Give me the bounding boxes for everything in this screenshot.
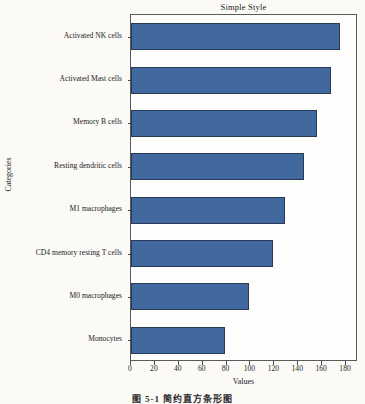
y-axis-tick xyxy=(128,254,131,255)
x-axis-tick-label: 0 xyxy=(128,364,132,373)
bar-row xyxy=(131,110,356,137)
x-axis-tick-label: 80 xyxy=(222,364,230,373)
bar-row xyxy=(131,327,356,354)
y-axis-tick xyxy=(128,123,131,124)
bar xyxy=(131,240,273,267)
bars-layer xyxy=(131,15,356,360)
x-axis-tick-label: 160 xyxy=(315,364,326,373)
x-axis-tick-label: 140 xyxy=(292,364,303,373)
y-axis-tick xyxy=(128,297,131,298)
x-axis-title: Values xyxy=(130,377,357,386)
bar-row xyxy=(131,67,356,94)
y-axis-tick-label: Monocytes xyxy=(0,334,126,343)
bar-row xyxy=(131,240,356,267)
x-axis-tick-label: 120 xyxy=(268,364,279,373)
y-axis-tick-label: Activated Mast cells xyxy=(0,74,126,83)
bar xyxy=(131,153,304,180)
bar xyxy=(131,283,249,310)
bar xyxy=(131,110,317,137)
y-axis-tick-labels: Activated NK cellsActivated Mast cellsMe… xyxy=(0,14,126,361)
plot-area xyxy=(130,14,357,361)
x-axis-tick-label: 20 xyxy=(150,364,158,373)
x-axis-tick-label: 40 xyxy=(174,364,182,373)
figure-container: Simple Style Categories Activated NK cel… xyxy=(0,0,365,404)
bar-row xyxy=(131,283,356,310)
x-axis-tick-label: 180 xyxy=(339,364,350,373)
y-axis-tick-label: M1 macrophages xyxy=(0,204,126,213)
x-axis-tick-label: 60 xyxy=(198,364,206,373)
y-axis-tick-label: M0 macrophages xyxy=(0,291,126,300)
y-axis-tick-label: Memory B cells xyxy=(0,117,126,126)
y-axis-tick-label: CD4 memory resting T cells xyxy=(0,248,126,257)
bar xyxy=(131,67,331,94)
y-axis-tick xyxy=(128,340,131,341)
figure-caption: 图 5-1 简约直方条形图 xyxy=(0,392,365,404)
bar xyxy=(131,23,340,50)
chart-title: Simple Style xyxy=(130,2,357,12)
bar-row xyxy=(131,23,356,50)
y-axis-tick xyxy=(128,37,131,38)
x-axis-tick-label: 100 xyxy=(244,364,255,373)
bar-row xyxy=(131,197,356,224)
y-axis-tick xyxy=(128,210,131,211)
y-axis-tick xyxy=(128,167,131,168)
y-axis-tick xyxy=(128,80,131,81)
y-axis-tick-label: Resting dendritic cells xyxy=(0,161,126,170)
bar-row xyxy=(131,153,356,180)
bar xyxy=(131,327,225,354)
bar xyxy=(131,197,285,224)
x-axis-tick-labels: 020406080100120140160180 xyxy=(130,364,357,376)
y-axis-tick-label: Activated NK cells xyxy=(0,31,126,40)
